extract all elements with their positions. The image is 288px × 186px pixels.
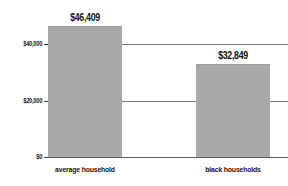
bar-black-households[interactable] bbox=[196, 64, 270, 157]
bar-value-label-average-household: $46,409 bbox=[54, 12, 116, 23]
gridline-40000 bbox=[122, 44, 288, 45]
y-axis-tick-label: $40,000 bbox=[23, 40, 42, 48]
gridline-20000 bbox=[122, 101, 196, 102]
y-axis-tick-20000: $20,000 bbox=[0, 97, 42, 105]
y-axis-tick-label: $0 bbox=[36, 153, 42, 161]
plot-area bbox=[48, 0, 288, 158]
x-axis-category-average-household: average household bbox=[45, 165, 126, 174]
y-axis-tick-0: $0 bbox=[0, 153, 42, 161]
x-axis-category-black-households: black households bbox=[194, 165, 271, 174]
y-axis-tick-label: $20,000 bbox=[23, 97, 42, 105]
gridline-20000-stub bbox=[270, 101, 288, 102]
x-axis-line bbox=[48, 157, 288, 158]
bar-average-household[interactable] bbox=[48, 26, 122, 157]
y-axis-tick-40000: $40,000 bbox=[0, 40, 42, 48]
bar-chart: $40,000 $20,000 $0 $46,409 $32,849 avera… bbox=[0, 0, 288, 186]
bar-value-label-black-households: $32,849 bbox=[202, 50, 264, 61]
